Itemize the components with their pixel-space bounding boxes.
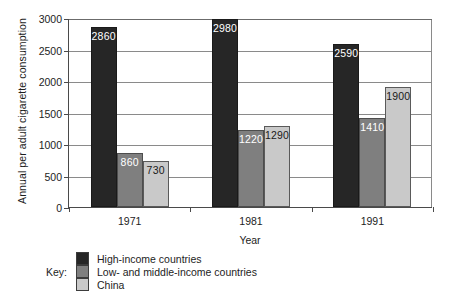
bar-group: 259014101900	[333, 19, 411, 207]
x-tick-mark	[190, 207, 191, 212]
legend-item[interactable]: China	[76, 278, 279, 291]
x-axis-title: Year	[68, 234, 432, 246]
bar-value-label: 1220	[239, 134, 263, 145]
bar-value-label: 730	[147, 165, 165, 176]
legend-prefix: Key:	[46, 266, 67, 278]
legend-label: High-income countries	[97, 253, 201, 265]
y-tick-label: 2500	[39, 45, 69, 57]
legend-items: High-income countriesLow- and middle-inc…	[76, 252, 279, 291]
bar[interactable]: 1410	[359, 118, 385, 207]
bar-value-label: 1900	[386, 91, 410, 102]
bar-value-label: 2860	[92, 31, 116, 42]
y-tick-label: 2000	[39, 76, 69, 88]
plot-area: 050010001500200025003000 286086073029801…	[68, 19, 432, 208]
bar-group: 298012201290	[212, 19, 290, 207]
legend-swatch	[76, 252, 89, 265]
bar[interactable]: 2590	[333, 44, 359, 207]
bar-value-label: 1410	[360, 122, 384, 133]
legend-swatch	[76, 265, 89, 278]
x-tick-label: 1971	[118, 215, 141, 227]
x-tick-mark	[433, 207, 434, 212]
bar-group: 2860860730	[91, 19, 169, 207]
y-tick-label: 0	[56, 202, 69, 214]
x-tick-label: 1981	[239, 215, 262, 227]
bar-series-container: 2860860730298012201290259014101900	[69, 19, 432, 207]
legend-label: China	[97, 279, 124, 291]
legend-item[interactable]: Low- and middle-income countries	[76, 265, 257, 278]
bar[interactable]: 1220	[238, 130, 264, 207]
y-tick-label: 1500	[39, 108, 69, 120]
bar-value-label: 2590	[334, 48, 358, 59]
bar-value-label: 1290	[265, 130, 289, 141]
y-tick-label: 3000	[39, 13, 69, 25]
x-tick-mark	[69, 207, 70, 212]
bar-value-label: 860	[121, 157, 139, 168]
legend-label: Low- and middle-income countries	[97, 266, 257, 278]
bar[interactable]: 860	[117, 153, 143, 207]
y-tick-label: 1000	[39, 139, 69, 151]
bar[interactable]: 1290	[264, 126, 290, 207]
x-tick-mark	[312, 207, 313, 212]
x-tick-label: 1991	[361, 215, 384, 227]
y-tick-label: 500	[44, 171, 69, 183]
bar[interactable]: 2860	[91, 27, 117, 207]
bar[interactable]: 730	[143, 161, 169, 207]
chart-legend: Key: High-income countriesLow- and middl…	[46, 252, 446, 291]
y-axis-title: Annual per adult cigarette consumption	[16, 11, 28, 211]
legend-swatch	[76, 278, 89, 291]
bar[interactable]: 2980	[212, 19, 238, 207]
bar[interactable]: 1900	[385, 87, 411, 207]
bar-value-label: 2980	[213, 23, 237, 34]
legend-item[interactable]: High-income countries	[76, 252, 257, 265]
